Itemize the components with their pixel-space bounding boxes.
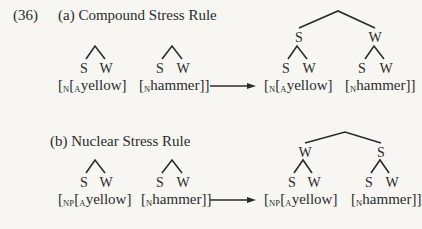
a-output-leaf-2: W: [302, 62, 315, 76]
b-input-1-label-s: S: [80, 176, 88, 190]
b-input-bracket-hammer: [Nhammer]]: [141, 192, 212, 208]
a-output-top-label-w: W: [368, 31, 381, 45]
b-output-bracket-hammer: [Nhammer]]: [351, 192, 422, 208]
b-output-bracket-yellow: [NP[Ayellow]: [264, 192, 337, 208]
b-output-leaf-1: S: [288, 176, 296, 190]
a-output-leaf-1: S: [282, 62, 290, 76]
arrow-a-head: [247, 83, 256, 89]
a-input-bracket-hammer: [Nhammer]]: [139, 78, 210, 94]
b-output-top-label-w: W: [298, 146, 311, 160]
a-input-2-label-s: S: [156, 62, 164, 76]
branch-b-left: [294, 160, 312, 173]
arrow-b-head: [247, 197, 256, 203]
a-output-top-label-s: S: [295, 31, 303, 45]
branch-b-right: [371, 160, 389, 173]
branch-a-input-2: [162, 46, 182, 59]
a-output-bracket-hammer: [Nhammer]]: [345, 78, 416, 94]
b-input-2-label-s: S: [156, 176, 164, 190]
a-input-2-label-w: W: [176, 62, 189, 76]
branch-a-input-1: [86, 46, 105, 59]
branch-a-top: [299, 11, 375, 28]
branch-a-right: [365, 46, 384, 59]
b-output-top-label-s: S: [377, 146, 385, 160]
branch-a-left: [288, 46, 307, 59]
b-output-leaf-4: W: [385, 176, 398, 190]
branch-b-input-1: [86, 160, 105, 173]
a-output-bracket-yellow: [N[Ayellow]: [264, 78, 333, 94]
b-input-bracket-yellow: [NP[Ayellow]: [58, 192, 131, 208]
b-output-leaf-3: S: [365, 176, 373, 190]
b-input-1-label-w: W: [99, 176, 112, 190]
a-input-bracket-yellow: [N[Ayellow]: [58, 78, 127, 94]
branch-b-top: [305, 132, 381, 143]
b-input-2-label-w: W: [176, 176, 189, 190]
a-input-1-label-s: S: [80, 62, 88, 76]
section-a-heading: (a) Compound Stress Rule: [58, 8, 217, 23]
a-input-1-label-w: W: [99, 62, 112, 76]
example-number: (36): [13, 8, 38, 23]
a-output-leaf-4: W: [379, 62, 392, 76]
b-output-leaf-2: W: [307, 176, 320, 190]
branch-b-input-2: [162, 160, 182, 173]
section-b-heading: (b) Nuclear Stress Rule: [50, 134, 190, 149]
a-output-leaf-3: S: [358, 62, 366, 76]
